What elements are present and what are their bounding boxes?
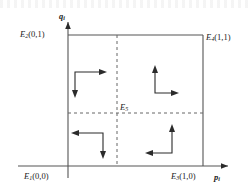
equilibrium-label-e2: E2(0,1) bbox=[20, 30, 45, 39]
lower-left-down-arrowhead bbox=[100, 151, 106, 159]
lower-left-elbow-path bbox=[78, 133, 103, 152]
upper-right-right-arrowhead bbox=[171, 90, 179, 96]
figure-page: qi pi E2(0,1) E4(1,1) E1(0,0) E3(1,0) E5 bbox=[0, 0, 252, 196]
e1-coords: (0,0) bbox=[32, 171, 48, 181]
e3-coords: (1,0) bbox=[179, 171, 195, 181]
upper-right-up-arrowhead bbox=[152, 65, 158, 73]
equilibrium-label-e4: E4(1,1) bbox=[206, 33, 231, 42]
lower-right-left-arrowhead bbox=[145, 150, 153, 156]
axes-group bbox=[18, 22, 228, 178]
e5-sub: 5 bbox=[125, 106, 128, 112]
direction-arrow-upper-left bbox=[72, 69, 107, 98]
lower-right-elbow-path bbox=[152, 131, 172, 153]
direction-arrow-lower-left bbox=[71, 130, 106, 159]
equilibrium-label-e5: E5 bbox=[120, 103, 128, 112]
y-axis-arrowhead bbox=[65, 22, 71, 29]
x-axis-arrowhead bbox=[221, 163, 228, 169]
upper-right-elbow-path bbox=[155, 72, 172, 93]
x-axis-label: pi bbox=[214, 173, 220, 182]
upper-left-elbow-path bbox=[75, 72, 100, 91]
equilibrium-label-e3: E3(1,0) bbox=[171, 172, 196, 181]
e4-coords: (1,1) bbox=[214, 32, 230, 42]
e2-coords: (0,1) bbox=[28, 29, 44, 39]
direction-arrow-upper-right bbox=[152, 65, 179, 96]
upper-left-down-arrowhead bbox=[72, 90, 78, 98]
unit-square-group bbox=[68, 35, 203, 166]
nullclines-group bbox=[68, 35, 203, 166]
lower-right-up-arrowhead bbox=[169, 124, 175, 132]
x-axis-label-sub: i bbox=[218, 176, 220, 182]
direction-arrow-lower-right bbox=[145, 124, 175, 156]
lower-left-left-arrowhead bbox=[71, 130, 79, 136]
y-axis-label: qi bbox=[59, 12, 65, 21]
equilibrium-label-e1: E1(0,0) bbox=[24, 172, 49, 181]
y-axis-label-sub: i bbox=[63, 15, 65, 21]
upper-left-right-arrowhead bbox=[99, 69, 107, 75]
